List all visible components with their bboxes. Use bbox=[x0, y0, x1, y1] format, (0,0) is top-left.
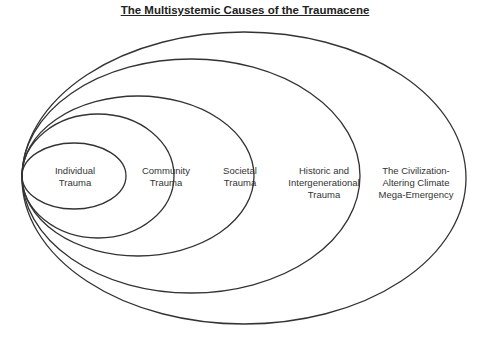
label-societal-trauma: Societal Trauma bbox=[210, 165, 270, 189]
label-community-trauma: Community Trauma bbox=[131, 165, 201, 189]
label-climate-mega-emergency: The Civilization- Altering Climate Mega-… bbox=[375, 165, 457, 201]
label-historic-intergenerational-trauma: Historic and Intergenerational Trauma bbox=[284, 165, 364, 201]
label-individual-trauma: Individual Trauma bbox=[40, 165, 110, 189]
